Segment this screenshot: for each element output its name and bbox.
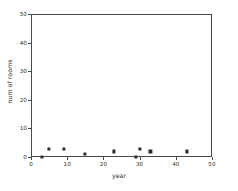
x-axis-tick-label: 50 — [208, 161, 215, 167]
x-axis-tick-label: 20 — [100, 161, 107, 167]
x-axis-tick — [31, 157, 32, 160]
y-axis-tick — [28, 71, 31, 72]
y-axis-tick — [28, 43, 31, 44]
x-axis-tick-label: 10 — [64, 161, 71, 167]
y-axis-tick-label: 0 — [23, 154, 27, 160]
y-axis-tick — [28, 100, 31, 101]
y-axis-tick-label: 10 — [20, 125, 27, 131]
x-axis-tick — [103, 157, 104, 160]
x-axis-tick-label: 40 — [172, 161, 179, 167]
y-axis-tick-label: 20 — [20, 97, 27, 103]
y-axis-tick — [28, 157, 31, 158]
plot-area — [31, 14, 212, 157]
y-axis-tick-label: 50 — [20, 11, 27, 17]
data-point — [138, 147, 141, 150]
y-axis-tick — [28, 14, 31, 15]
data-point — [113, 150, 116, 153]
data-point — [62, 147, 65, 150]
data-point — [134, 156, 137, 159]
data-point — [48, 147, 51, 150]
x-axis-tick-label: 30 — [136, 161, 143, 167]
data-point — [40, 156, 43, 159]
x-axis-tick — [140, 157, 141, 160]
x-axis-tick — [212, 157, 213, 160]
data-point — [149, 150, 152, 153]
x-axis-tick — [176, 157, 177, 160]
y-axis-tick-label: 30 — [20, 68, 27, 74]
data-point — [185, 150, 188, 153]
data-point — [84, 153, 87, 156]
y-axis-tick-label: 40 — [20, 40, 27, 46]
scatter-plot-figure: 0102030405001020304050 year num of rooms — [0, 0, 238, 191]
y-axis-label: num of rooms — [6, 52, 13, 112]
x-axis-tick — [67, 157, 68, 160]
x-axis-label: year — [0, 172, 238, 179]
x-axis-tick-label: 0 — [29, 161, 33, 167]
y-axis-tick — [28, 128, 31, 129]
